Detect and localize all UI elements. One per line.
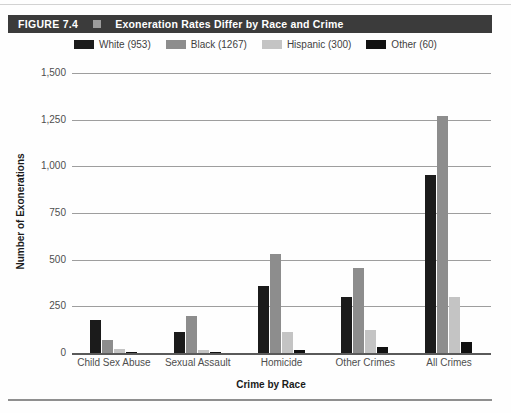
bar-white-other-crimes: [341, 297, 352, 353]
y-tick-label: 500: [26, 254, 66, 265]
legend-label: White (953): [99, 39, 151, 50]
y-tick-label: 1,500: [26, 67, 66, 78]
figure-number-label: FIGURE 7.4: [18, 18, 78, 30]
x-axis-baseline: [72, 353, 491, 355]
square-bullet-icon: [93, 20, 101, 28]
x-tick-label: Other Crimes: [336, 357, 395, 368]
gridline-1,500: [72, 73, 491, 74]
y-tick-label: 0: [26, 347, 66, 358]
x-axis-title: Crime by Race: [236, 379, 305, 390]
top-rule: [0, 4, 511, 5]
gridline-1,000: [72, 166, 491, 167]
bar-black-homicide: [270, 254, 281, 353]
figure-header: FIGURE 7.4 Exoneration Rates Differ by R…: [8, 15, 492, 33]
legend-swatch-icon: [166, 40, 186, 49]
y-axis-title: Number of Exonerations: [15, 147, 26, 277]
legend-swatch-icon: [74, 40, 94, 49]
bar-hispanic-homicide: [282, 332, 293, 353]
bar-other-all-crimes: [461, 342, 472, 353]
bar-white-child-sex-abuse: [90, 320, 101, 353]
y-tick-label: 1,000: [26, 160, 66, 171]
x-tick-label: Sexual Assault: [165, 357, 231, 368]
bar-white-homicide: [258, 286, 269, 353]
bar-hispanic-all-crimes: [449, 297, 460, 353]
legend-swatch-icon: [366, 40, 386, 49]
bar-black-other-crimes: [353, 268, 364, 353]
gridline-1,250: [72, 120, 491, 121]
figure-page: FIGURE 7.4 Exoneration Rates Differ by R…: [0, 0, 511, 413]
bar-hispanic-other-crimes: [365, 330, 376, 353]
legend-swatch-icon: [262, 40, 282, 49]
x-tick-label: All Crimes: [426, 357, 472, 368]
bar-white-all-crimes: [425, 175, 436, 353]
legend-item: Black (1267): [166, 39, 247, 50]
legend-item: Hispanic (300): [262, 39, 351, 50]
y-tick-label: 750: [26, 207, 66, 218]
x-tick-label: Homicide: [261, 357, 303, 368]
bottom-rule: [8, 399, 492, 401]
legend-item: Other (60): [366, 39, 437, 50]
bar-black-all-crimes: [437, 116, 448, 353]
y-tick-label: 1,250: [26, 114, 66, 125]
x-tick-label: Child Sex Abuse: [77, 357, 150, 368]
legend-label: Hispanic (300): [287, 39, 351, 50]
legend-label: Other (60): [391, 39, 437, 50]
bar-black-sexual-assault: [186, 316, 197, 353]
y-tick-label: 250: [26, 300, 66, 311]
bar-white-sexual-assault: [174, 332, 185, 353]
legend-label: Black (1267): [191, 39, 247, 50]
legend-item: White (953): [74, 39, 151, 50]
bar-black-child-sex-abuse: [102, 340, 113, 353]
chart-legend: White (953)Black (1267)Hispanic (300)Oth…: [0, 39, 511, 50]
figure-title: Exoneration Rates Differ by Race and Cri…: [115, 18, 343, 30]
